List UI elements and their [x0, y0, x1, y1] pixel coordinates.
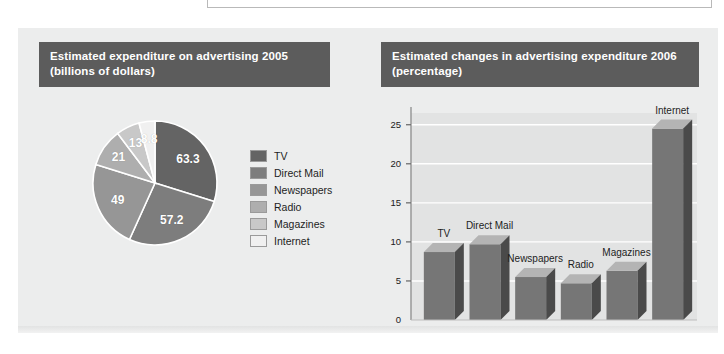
legend-item-label: Direct Mail: [274, 167, 324, 179]
bar-front-face: [561, 283, 592, 320]
pie-slice-value: 49: [111, 193, 124, 207]
pie-chart-title-line1: Estimated expenditure on advertising 200…: [50, 50, 288, 62]
bar-category-label: Internet: [655, 105, 689, 116]
pie-chart: TVDirect MailNewspapersRadioMagazinesInt…: [39, 95, 339, 285]
pie-slice-value: 63.3: [176, 152, 199, 166]
legend-item-label: TV: [274, 150, 287, 162]
legend-item-label: Newspapers: [274, 184, 332, 196]
legend-item: TV: [250, 148, 345, 164]
bar-category-label: TV: [437, 228, 450, 239]
legend-item-label: Magazines: [274, 218, 325, 230]
bar-category-label: Radio: [568, 259, 594, 270]
bar-category-label: Direct Mail: [466, 220, 513, 231]
pie-slice-value: 21: [112, 150, 125, 164]
pie-slice-value: 8.8: [141, 132, 158, 146]
pie-chart-title: Estimated expenditure on advertising 200…: [39, 42, 330, 87]
bar-category-label: Newspapers: [507, 253, 563, 264]
legend-swatch-icon: [250, 201, 267, 213]
legend-swatch-icon: [250, 167, 267, 179]
legend-item-label: Radio: [274, 201, 301, 213]
legend-swatch-icon: [250, 184, 267, 196]
bar-y-axis-tick-label: 15: [383, 197, 401, 208]
bar-chart-title-line2: (percentage): [392, 64, 689, 79]
bar-y-axis-tick-label: 0: [383, 314, 401, 325]
bar-side-face: [455, 243, 464, 320]
pie-slice-value: 57.2: [160, 213, 183, 227]
legend-item: Internet: [250, 233, 345, 249]
bar-front-face: [652, 129, 683, 320]
legend-item: Magazines: [250, 216, 345, 232]
bar-chart: 0510152025TVDirect MailNewspapersRadioMa…: [381, 95, 699, 295]
page-top-frame: [207, 0, 712, 8]
bar-chart-title: Estimated changes in advertising expendi…: [381, 42, 699, 87]
bar-front-face: [470, 244, 501, 320]
bar-chart-svg: [381, 95, 699, 330]
bar-chart-title-line1: Estimated changes in advertising expendi…: [392, 50, 677, 62]
bar-side-face: [638, 262, 647, 320]
pie-chart-title-line2: (billions of dollars): [50, 64, 320, 79]
legend-item: Direct Mail: [250, 165, 345, 181]
legend-item: Radio: [250, 199, 345, 215]
bar-y-axis-tick-label: 25: [383, 119, 401, 130]
bar-side-face: [546, 268, 555, 320]
bar-y-axis-tick-label: 10: [383, 236, 401, 247]
bar-front-face: [424, 252, 455, 320]
legend-swatch-icon: [250, 150, 267, 162]
legend-item-label: Internet: [274, 235, 310, 247]
legend-swatch-icon: [250, 235, 267, 247]
bar-category-label: Magazines: [602, 247, 650, 258]
pie-chart-legend: TVDirect MailNewspapersRadioMagazinesInt…: [250, 148, 345, 250]
bar-y-axis-tick-label: 20: [383, 158, 401, 169]
legend-item: Newspapers: [250, 182, 345, 198]
bar-side-face: [501, 235, 510, 320]
bar-front-face: [607, 271, 638, 320]
bar-front-face: [515, 277, 546, 320]
legend-swatch-icon: [250, 218, 267, 230]
bar-side-face: [683, 120, 692, 320]
bar-y-axis-tick-label: 5: [383, 275, 401, 286]
